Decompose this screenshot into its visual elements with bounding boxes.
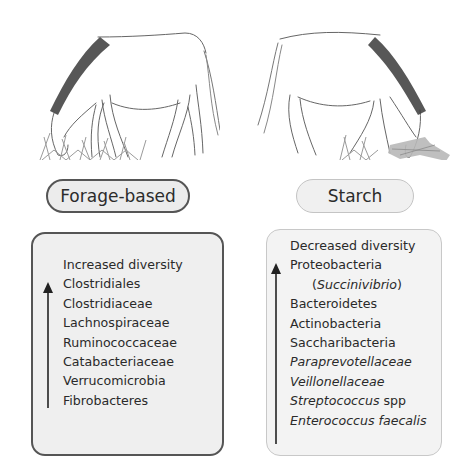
list-item: (Succinivibrio)	[290, 275, 427, 294]
list-item: Clostridiaceae	[63, 294, 183, 313]
list-item: Verrucomicrobia	[63, 371, 183, 390]
starch-label: Starch	[296, 179, 414, 213]
forage-based-label: Forage-based	[46, 179, 190, 213]
list-item: Fibrobacteres	[63, 391, 183, 410]
list-item: Enterococcus faecalis	[290, 411, 427, 430]
starch-label-text: Starch	[328, 186, 383, 206]
list-item: Catabacteriaceae	[63, 352, 183, 371]
list-item: Decreased diversity	[290, 236, 427, 255]
forage-microbiota-list: Increased diversity Clostridiales Clostr…	[63, 255, 183, 410]
list-item: Saccharibacteria	[290, 333, 427, 352]
list-item: Bacteroidetes	[290, 294, 427, 313]
list-item: Lachnospiraceae	[63, 313, 183, 332]
starch-microbiota-list: Decreased diversity Proteobacteria (Succ…	[290, 236, 427, 430]
list-item: Proteobacteria	[290, 255, 427, 274]
mane-icon	[50, 37, 110, 115]
list-item: Ruminococcaceae	[63, 333, 183, 352]
list-item: Paraprevotellaceae	[290, 352, 427, 371]
up-arrow-icon	[270, 261, 282, 446]
mane-icon	[368, 37, 426, 115]
horse-grazing-grass-illustration	[20, 25, 220, 160]
forage-based-label-text: Forage-based	[60, 186, 176, 206]
horse-eating-starch-illustration	[250, 25, 450, 160]
hay-icon	[388, 137, 450, 160]
list-item: Clostridiales	[63, 274, 183, 293]
list-item: Actinobacteria	[290, 314, 427, 333]
up-arrow-icon	[42, 280, 54, 410]
list-item: Streptococcus spp	[290, 391, 427, 410]
list-item: Increased diversity	[63, 255, 183, 274]
list-item: Veillonellaceae	[290, 372, 427, 391]
